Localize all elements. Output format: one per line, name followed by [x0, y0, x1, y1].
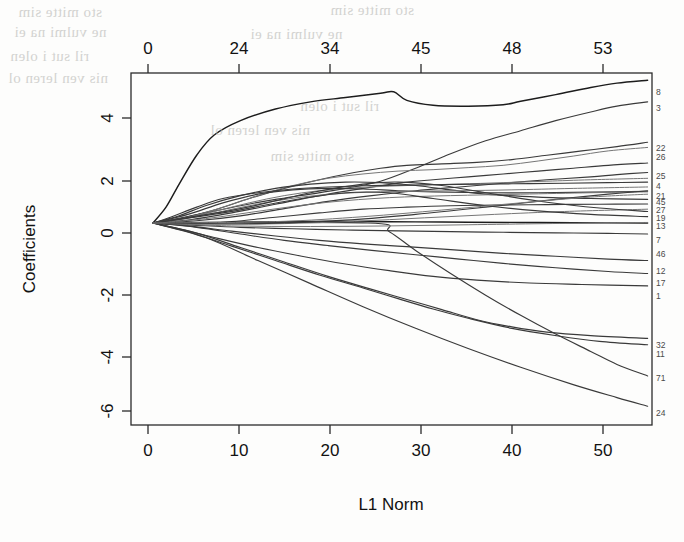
- variable-index-label: 11: [656, 349, 665, 359]
- x-tick-label-top: 24: [230, 39, 249, 58]
- variable-index-label: 24: [656, 408, 666, 418]
- variable-index-label: 46: [656, 249, 666, 259]
- y-tick-label: 4: [98, 113, 117, 122]
- x-tick-label-bottom: 10: [230, 441, 249, 460]
- x-tick-label-bottom: 30: [412, 441, 431, 460]
- lasso-path-figure: sto mitte sim ne vulmi na ei ril sut i o…: [0, 0, 684, 542]
- y-axis-left: 420-2-4-6: [98, 113, 131, 418]
- variable-index-label: 1: [656, 291, 661, 301]
- variable-index-labels: 83222625421452719137461217132117124: [656, 87, 666, 418]
- coefficient-paths: [153, 80, 648, 406]
- variable-index-label: 25: [656, 171, 666, 181]
- x-tick-label-bottom: 40: [503, 441, 522, 460]
- x-tick-label-bottom: 0: [143, 441, 152, 460]
- variable-index-label: 3: [656, 103, 661, 113]
- y-tick-label: -6: [98, 403, 117, 418]
- variable-index-label: 71: [656, 373, 666, 383]
- variable-index-label: 13: [656, 221, 666, 231]
- variable-index-label: 8: [656, 87, 661, 97]
- x-tick-label-top: 0: [143, 39, 152, 58]
- x-tick-label-top: 48: [503, 39, 522, 58]
- y-tick-label: 0: [98, 228, 117, 237]
- variable-index-label: 7: [656, 235, 661, 245]
- variable-index-label: 17: [656, 278, 666, 288]
- variable-index-label: 26: [656, 152, 666, 162]
- variable-index-label: 12: [656, 266, 666, 276]
- x-axis-top: 02434454853: [143, 39, 612, 73]
- x-axis-bottom: 01020304050: [143, 425, 612, 460]
- plot-frame: [131, 73, 652, 425]
- coefficient-path: [153, 223, 648, 261]
- coefficient-path-plot: 01020304050 02434454853 420-2-4-6 832226…: [0, 0, 684, 542]
- x-tick-label-top: 45: [412, 39, 431, 58]
- y-tick-label: 2: [98, 176, 117, 185]
- x-axis-title: L1 Norm: [358, 495, 423, 514]
- x-tick-label-bottom: 20: [321, 441, 340, 460]
- y-tick-label: -4: [98, 349, 117, 364]
- variable-index-label: 4: [656, 181, 661, 191]
- x-tick-label-top: 34: [321, 39, 340, 58]
- x-tick-label-bottom: 50: [594, 441, 613, 460]
- x-tick-label-top: 53: [594, 39, 613, 58]
- coefficient-path: [153, 223, 648, 406]
- y-tick-label: -2: [98, 287, 117, 302]
- y-axis-title: Coefficients: [20, 205, 39, 294]
